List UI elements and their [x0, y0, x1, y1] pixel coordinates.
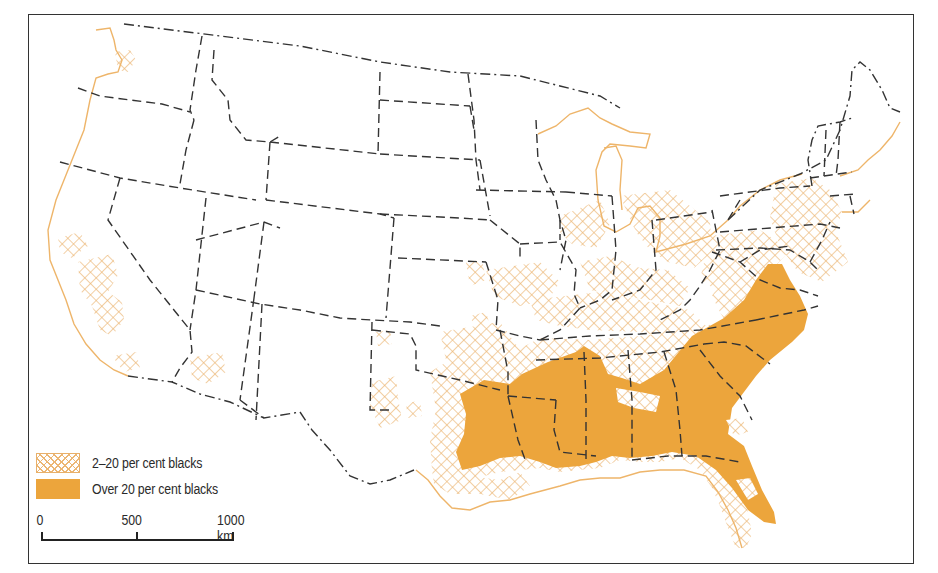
legend-label: Over 20 per cent blacks	[92, 481, 218, 497]
legend-label: 2–20 per cent blacks	[92, 455, 202, 471]
legend-item-hatched: 2–20 per cent blacks	[36, 450, 235, 476]
scale-label-0: 0	[36, 512, 43, 528]
scale-label-500: 500	[121, 512, 142, 528]
legend: 2–20 per cent blacks Over 20 per cent bl…	[36, 450, 235, 502]
scale-tick	[136, 532, 138, 541]
solid-swatch-icon	[36, 479, 80, 499]
scale-bar: 0 500 1000 km	[36, 512, 266, 552]
scale-tick	[41, 532, 43, 541]
scale-tick	[232, 532, 234, 541]
hatch-swatch-icon	[36, 453, 80, 473]
legend-item-solid: Over 20 per cent blacks	[36, 476, 235, 502]
